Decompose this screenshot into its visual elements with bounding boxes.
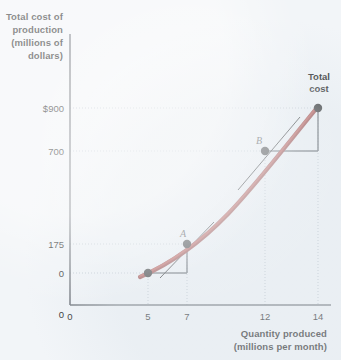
chart-container: A B Total cost $900 700 175 0 0 0 5 7 12… [0,0,341,360]
y-tick-labels: $900 700 175 0 0 [43,103,64,320]
x-tick-0: 0 [67,311,72,322]
x-tick-labels: 0 5 7 12 14 [67,311,323,322]
marker-point-b [261,147,269,155]
x-tick-12: 12 [260,311,271,322]
gridlines [70,108,318,305]
cost-curve-chart: A B Total cost $900 700 175 0 0 0 5 7 12… [0,0,341,360]
marker-endpoint [314,104,322,112]
data-point-markers [144,104,322,277]
y-tick-175: 0 [59,268,64,279]
x-axis-title-line1: Quantity produced [241,328,327,339]
total-cost-curve-highlight [140,108,316,276]
total-cost-curve-shadow [140,109,316,277]
x-axis-title-line2: (millions per month) [234,341,327,352]
y-axis-title-line1: Total cost of [6,11,64,22]
y-tick-0: 0 [59,309,64,320]
point-label-a: A [179,228,187,239]
curve-label-line1: Total [308,71,330,82]
y-axis-title-line4: dollars) [28,50,63,61]
curve-label-line2: cost [309,83,329,94]
marker-start [144,269,152,277]
x-tick-7: 7 [184,311,189,322]
y-axis-title: Total cost of production (millions of do… [6,11,64,61]
y-axis-title-line2: production [12,24,63,35]
y-tick-300: 175 [48,239,64,250]
y-tick-700: 700 [48,146,64,157]
total-cost-curve [140,108,316,277]
marker-point-a [183,240,191,248]
axes [70,34,331,305]
x-tick-5: 5 [145,311,150,322]
y-tick-900: $900 [43,103,64,114]
tangent-line-b [238,117,300,190]
x-tick-14: 14 [313,311,324,322]
point-label-b: B [256,135,262,146]
y-axis-title-line3: (millions of [11,37,64,48]
x-axis-title: Quantity produced (millions per month) [234,328,327,352]
